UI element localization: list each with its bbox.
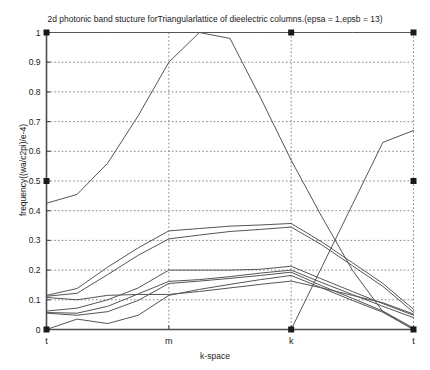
data-line-band-5 (47, 281, 414, 314)
x-tick-label: t (45, 336, 48, 346)
data-line-band-1 (47, 275, 414, 329)
marker-top-right (411, 30, 417, 36)
y-tick-labels: 00.10.20.30.40.50.60.70.80.91 (29, 28, 41, 335)
y-tick-label: 0.6 (29, 146, 41, 156)
marker-bottom-mid (288, 327, 294, 333)
data-line-band-8 (47, 33, 414, 204)
y-tick-label: 0.5 (29, 176, 41, 186)
band-structure-plot: 00.10.20.30.40.50.60.70.80.91 tmkt (0, 0, 430, 370)
x-tick-labels: tmkt (45, 336, 415, 346)
y-tick-label: 0 (36, 325, 41, 335)
y-tick-label: 0.8 (29, 87, 41, 97)
marker-right-half (411, 178, 417, 184)
chart-root: 2d photonic band stucture forTriangularl… (0, 0, 430, 370)
marker-top-mid (288, 30, 294, 36)
marker-top-left (44, 30, 50, 36)
x-tick-label: k (289, 336, 294, 346)
marker-bottom-right (411, 327, 417, 333)
y-tick-label: 0.9 (29, 57, 41, 67)
y-tick-label: 0.7 (29, 117, 41, 127)
y-tick-label: 0.1 (29, 295, 41, 305)
grid-lines (47, 33, 414, 330)
marker-left-half (44, 178, 50, 184)
x-tick-label: t (412, 336, 415, 346)
y-tick-label: 0.2 (29, 265, 41, 275)
x-tick-label: m (165, 336, 173, 346)
y-tick-label: 0.3 (29, 235, 41, 245)
y-tick-label: 0.4 (29, 206, 41, 216)
y-tick-label: 1 (36, 28, 41, 38)
marker-bottom-left (44, 327, 50, 333)
